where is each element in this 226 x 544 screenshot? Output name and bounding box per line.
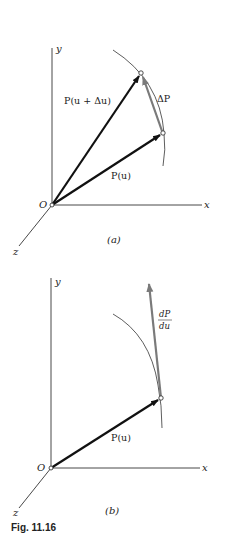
label-p-u-b: P(u) (111, 432, 131, 443)
vector-p-u-a (52, 135, 160, 205)
origin-label-b: O (37, 462, 45, 473)
origin-label-a: O (39, 199, 47, 210)
label-p-u-a: P(u) (111, 170, 131, 181)
panel-label-a: (a) (107, 234, 121, 245)
panel-a: y x z O P(u + Δu) ΔP P(u) (a) (12, 43, 210, 257)
x-axis-label-a: x (204, 199, 210, 210)
figure-caption: Fig. 11.16 (11, 522, 56, 533)
z-axis-a (19, 205, 52, 246)
point-b (159, 396, 163, 400)
vector-p-u-b (51, 400, 158, 468)
z-axis-label-a: z (12, 246, 19, 257)
label-dp-du: dP du (158, 309, 172, 331)
label-delta-p: ΔP (157, 93, 171, 104)
label-dp-du-denominator: du (159, 321, 170, 331)
z-axis-b (19, 468, 51, 508)
panel-b: y x z O dP du P(u) (b) (12, 276, 208, 518)
figure-canvas: y x z O P(u + Δu) ΔP P(u) (a) y x z O dP… (0, 0, 226, 544)
y-axis-label-a: y (55, 43, 62, 54)
point-a-lower (161, 131, 165, 135)
origin-point-b (49, 466, 53, 470)
vector-delta-p (143, 77, 162, 131)
y-axis-label-b: y (54, 276, 61, 287)
vector-dp-du (149, 284, 161, 398)
origin-point-a (50, 203, 54, 207)
label-dp-du-numerator: dP (159, 309, 170, 319)
label-p-u-plus-du: P(u + Δu) (64, 95, 111, 106)
z-axis-label-b: z (12, 507, 19, 518)
x-axis-label-b: x (202, 462, 208, 473)
panel-label-b: (b) (105, 505, 119, 516)
point-a-upper (139, 71, 143, 75)
